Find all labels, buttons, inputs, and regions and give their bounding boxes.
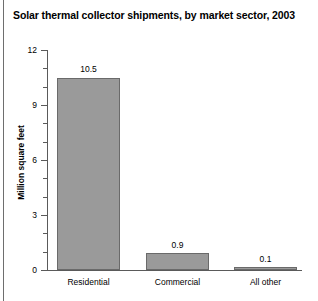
- y-tick-label-0: 0: [13, 266, 37, 275]
- bar-chart-plot: 0 3 6 9 12 Million square feet 10.5 Resi…: [0, 0, 318, 301]
- y-tick-minor-7: [43, 142, 47, 143]
- y-tick-minor-4: [43, 197, 47, 198]
- bar-value-residential: 10.5: [57, 65, 120, 74]
- y-tick-major-0: [41, 270, 47, 271]
- bar-value-commercial: 0.9: [146, 241, 209, 250]
- x-category-label-residential: Residential: [57, 277, 120, 287]
- bar-residential[interactable]: [57, 78, 120, 270]
- y-axis-title: Million square feet: [17, 98, 26, 228]
- y-tick-major-3: [41, 215, 47, 216]
- y-tick-minor-2: [43, 233, 47, 234]
- y-tick-minor-11: [43, 68, 47, 69]
- x-category-label-all-other: All other: [234, 277, 297, 287]
- y-tick-minor-5: [43, 178, 47, 179]
- bar-commercial[interactable]: [146, 253, 209, 270]
- y-tick-major-6: [41, 160, 47, 161]
- y-axis-line: [47, 50, 48, 271]
- y-tick-minor-8: [43, 123, 47, 124]
- y-tick-label-12: 12: [13, 46, 37, 55]
- x-category-label-commercial: Commercial: [146, 277, 209, 287]
- y-tick-major-9: [41, 105, 47, 106]
- x-axis-line: [47, 270, 302, 271]
- bar-value-all-other: 0.1: [234, 255, 297, 264]
- bar-all-other[interactable]: [234, 267, 297, 270]
- y-tick-minor-10: [43, 87, 47, 88]
- y-tick-minor-1: [43, 252, 47, 253]
- y-tick-major-12: [41, 50, 47, 51]
